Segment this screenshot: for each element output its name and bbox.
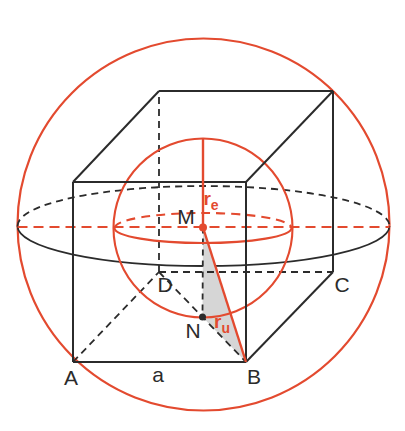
cube-edge-GF [246, 91, 333, 182]
cube-edge-BC [246, 272, 333, 362]
label-radius-re: re [203, 188, 218, 213]
label-vertex-B: B [247, 365, 261, 388]
label-edge-a: a [152, 363, 164, 386]
label-center-M: M [177, 205, 195, 228]
label-vertex-A: A [64, 366, 78, 389]
label-vertex-C: C [334, 273, 349, 296]
cube-edge-AD-hidden [73, 272, 159, 362]
figure-canvas: AaBCDMNreru [0, 0, 405, 431]
point-M-dot [199, 224, 207, 232]
cube-edge-HE [73, 91, 159, 182]
label-point-N: N [185, 319, 200, 342]
label-vertex-D: D [157, 273, 172, 296]
cube-inscribed-circumscribed-sphere-diagram: AaBCDMNreru [0, 0, 405, 431]
